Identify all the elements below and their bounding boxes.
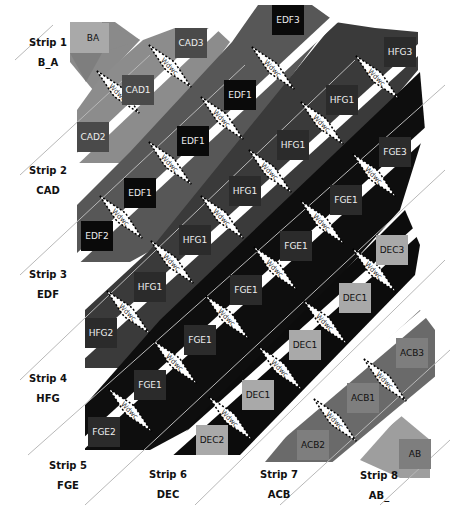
strip-label-8: Strip 8 AB_ bbox=[349, 469, 409, 502]
tile-label: AB bbox=[395, 448, 435, 460]
tile-label: FGE3 bbox=[375, 146, 415, 158]
tile-label: ACB3 bbox=[392, 347, 432, 359]
tile-label: EDF2 bbox=[77, 230, 117, 242]
tile-label: HFG2 bbox=[81, 327, 121, 339]
strip-label-5: Strip 5 FGE bbox=[38, 459, 98, 492]
tile-label: HFG1 bbox=[225, 185, 265, 197]
strip-title: Strip 7 bbox=[249, 468, 309, 481]
strip-title: Strip 5 bbox=[38, 459, 98, 472]
tile-label: EDF1 bbox=[120, 187, 160, 199]
strip-code: DEC bbox=[138, 488, 198, 501]
strip-title: Strip 3 bbox=[18, 268, 78, 281]
tile-label: FGE1 bbox=[130, 379, 170, 391]
strip-label-4: Strip 4 HFG bbox=[18, 372, 78, 405]
strip-code: AB_ bbox=[349, 489, 409, 502]
tile-label: CAD3 bbox=[171, 37, 211, 49]
tile-label: CAD2 bbox=[73, 131, 113, 143]
tile-label: HFG3 bbox=[380, 46, 420, 58]
tile-label: EDF1 bbox=[173, 135, 213, 147]
strip-code: EDF bbox=[18, 288, 78, 301]
tile-label: HFG1 bbox=[273, 139, 313, 151]
tile-label: DEC1 bbox=[285, 339, 325, 351]
tile-label: FGE1 bbox=[326, 194, 366, 206]
strip-title: Strip 6 bbox=[138, 468, 198, 481]
tile-label: FGE1 bbox=[226, 284, 266, 296]
tile-label: HFG1 bbox=[130, 281, 170, 293]
tile-label: FGE1 bbox=[276, 240, 316, 252]
strip-title: Strip 2 bbox=[18, 164, 78, 177]
strip-label-6: Strip 6 DEC bbox=[138, 468, 198, 501]
tile-label: FGE1 bbox=[180, 334, 220, 346]
tile-label: DEC1 bbox=[335, 292, 375, 304]
strip-title: Strip 4 bbox=[18, 372, 78, 385]
strip-code: FGE bbox=[38, 479, 98, 492]
strip-code: HFG bbox=[18, 392, 78, 405]
tile-label: DEC3 bbox=[372, 244, 412, 256]
strip-label-7: Strip 7 ACB bbox=[249, 468, 309, 501]
strip-code: ACB bbox=[249, 488, 309, 501]
tile-label: DEC1 bbox=[238, 389, 278, 401]
tile-label: BA bbox=[73, 32, 113, 44]
strip-label-2: Strip 2 CAD bbox=[18, 164, 78, 197]
strip-title: Strip 8 bbox=[349, 469, 409, 482]
tile-label: HFG1 bbox=[175, 234, 215, 246]
strip-code: B_A bbox=[18, 56, 78, 69]
strip-title: Strip 1 bbox=[18, 36, 78, 49]
tile-label: EDF1 bbox=[220, 89, 260, 101]
strip-label-1: Strip 1 B_A bbox=[18, 36, 78, 69]
strip-code: CAD bbox=[18, 184, 78, 197]
tile-label: EDF3 bbox=[268, 14, 308, 26]
tile-label: ACB2 bbox=[293, 439, 333, 451]
tile-label: FGE2 bbox=[84, 426, 124, 438]
tile-label: HFG1 bbox=[322, 94, 362, 106]
tile-label: ACB1 bbox=[343, 392, 383, 404]
tile-label: DEC2 bbox=[192, 434, 232, 446]
tile-label: CAD1 bbox=[118, 84, 158, 96]
strip-label-3: Strip 3 EDF bbox=[18, 268, 78, 301]
